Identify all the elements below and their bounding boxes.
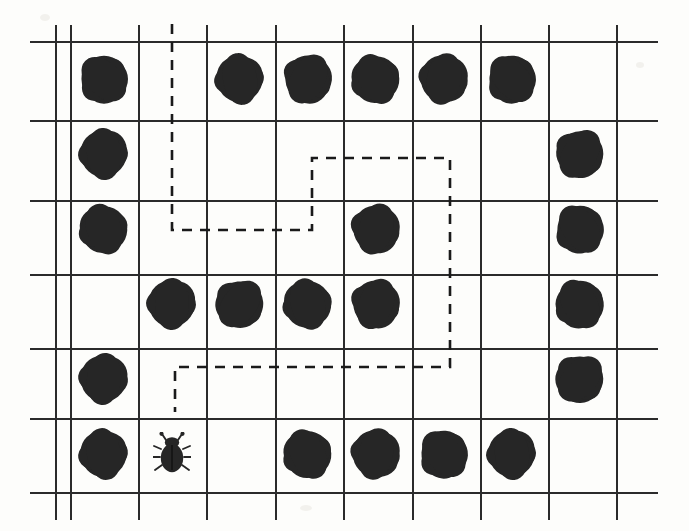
blob-shape — [346, 48, 407, 109]
puzzle-scene — [0, 0, 689, 531]
paper-speck — [300, 505, 312, 511]
food-blob-r1c7[interactable] — [478, 41, 546, 116]
food-blob-r2c8[interactable] — [546, 116, 614, 191]
blob-shape — [277, 423, 338, 484]
food-blob-r6c4[interactable] — [274, 416, 342, 491]
food-blob-r1c4[interactable] — [274, 41, 342, 116]
blob-shape — [214, 53, 266, 105]
blob-shape — [347, 200, 405, 258]
blob-shape — [548, 122, 612, 186]
blob-shape — [280, 276, 336, 332]
grid-vline-0 — [55, 25, 57, 520]
food-blob-r3c5[interactable] — [342, 191, 410, 266]
blob-shape — [78, 427, 131, 480]
food-blob-r6c5[interactable] — [342, 416, 410, 491]
blob-shape — [487, 429, 536, 478]
grid-vline-9 — [616, 25, 618, 520]
food-blob-r6c6[interactable] — [410, 416, 478, 491]
bug-icon — [153, 432, 191, 476]
food-blob-r5c1[interactable] — [70, 341, 138, 416]
food-blob-r3c8[interactable] — [546, 191, 614, 266]
paper-speck — [636, 62, 644, 68]
food-blob-r1c3[interactable] — [206, 41, 274, 116]
food-blob-r1c5[interactable] — [342, 41, 410, 116]
blob-shape — [80, 129, 128, 177]
food-blob-r1c1[interactable] — [70, 41, 138, 116]
blob-shape — [148, 280, 196, 328]
blob-shape — [416, 51, 471, 106]
food-blob-r6c7[interactable] — [478, 416, 546, 491]
blob-shape — [547, 346, 612, 411]
food-blob-r3c1[interactable] — [70, 191, 138, 266]
blob-shape — [480, 46, 545, 111]
bug-marker-r6c2[interactable] — [138, 416, 206, 491]
blob-shape — [548, 196, 612, 260]
grid-hline-6 — [30, 492, 658, 494]
blob-shape — [75, 199, 133, 257]
food-blob-r4c5[interactable] — [342, 266, 410, 341]
blob-shape — [412, 421, 477, 486]
food-blob-r4c8[interactable] — [546, 266, 614, 341]
blob-shape — [277, 47, 340, 110]
blob-shape — [208, 271, 273, 336]
food-blob-r6c1[interactable] — [70, 416, 138, 491]
food-blob-r2c1[interactable] — [70, 116, 138, 191]
food-blob-r1c6[interactable] — [410, 41, 478, 116]
food-blob-r5c8[interactable] — [546, 341, 614, 416]
paper-speck — [40, 14, 50, 21]
blob-shape — [71, 46, 136, 111]
blob-shape — [346, 273, 406, 333]
blob-shape — [78, 353, 129, 404]
food-blob-r4c3[interactable] — [206, 266, 274, 341]
blob-shape — [549, 272, 612, 335]
food-blob-r4c4[interactable] — [274, 266, 342, 341]
food-blob-r4c2[interactable] — [138, 266, 206, 341]
blob-shape — [349, 426, 404, 481]
